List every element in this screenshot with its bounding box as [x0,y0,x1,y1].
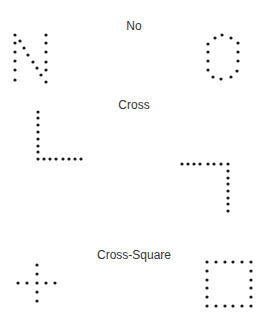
dot [213,36,216,39]
dot-shape-square [205,260,252,307]
dot [212,162,215,165]
dot [36,123,39,126]
dot [22,46,25,49]
dot [36,150,39,153]
dot [54,157,57,160]
dot [240,304,243,307]
dot-shape-letter-o [206,33,239,80]
dot [13,33,16,36]
dot [249,260,252,263]
dot [240,260,243,263]
dot [36,137,39,140]
dot [13,59,16,62]
dot [249,278,252,281]
dot [44,68,47,71]
dot [44,50,47,53]
dot [249,269,252,272]
dot [61,157,64,160]
dot [223,304,226,307]
dot [39,73,42,76]
dot [249,295,252,298]
dot-shape-letter-n [13,33,47,83]
dot [35,272,38,275]
dot [180,162,183,165]
dot [220,33,223,36]
dot [235,69,238,72]
dot [231,260,234,263]
dot [35,281,38,284]
dot [79,157,82,160]
dot [205,278,208,281]
dot [226,169,229,172]
dot [13,78,16,81]
dot [236,59,239,62]
dot [206,59,209,62]
dot [44,33,47,36]
dot [13,68,16,71]
dot [53,281,56,284]
dot [35,66,38,69]
dot-figures [0,0,268,326]
dot [236,50,239,53]
dot [229,75,232,78]
dot [35,290,38,293]
dot [249,286,252,289]
dot-shape-corner-l [36,110,82,160]
dot [25,281,28,284]
dot [18,39,21,42]
dot [16,281,19,284]
dot [36,110,39,113]
dot-shape-plus-cross [16,263,56,302]
dot [44,41,47,44]
dot [231,304,234,307]
dot [226,176,229,179]
dot [36,157,39,160]
dot [36,144,39,147]
dot [67,157,70,160]
dot [206,50,209,53]
dot [226,202,229,205]
dot [214,304,217,307]
dot [205,269,208,272]
dot [198,162,201,165]
dot [219,77,222,80]
dot [226,182,229,185]
dot [192,162,195,165]
dot [13,50,16,53]
dot [205,304,208,307]
dot [73,157,76,160]
dot [205,260,208,263]
dot [206,42,209,45]
dot [35,263,38,266]
dot [219,162,222,165]
dot [236,41,239,44]
dot [44,281,47,284]
dot [226,196,229,199]
dot [214,260,217,263]
dot [42,157,45,160]
dot [211,75,214,78]
dot [26,53,29,56]
dot [206,68,209,71]
dot [226,162,229,165]
dot [206,162,209,165]
dot [48,157,51,160]
dot [205,286,208,289]
dot [35,299,38,302]
dot [229,36,232,39]
dot-shape-corner-mirrored [180,162,229,212]
dot [205,295,208,298]
dot [223,260,226,263]
dot [31,60,34,63]
dot [44,60,47,63]
dot [36,130,39,133]
dot [226,189,229,192]
dot [13,41,16,44]
dot [226,209,229,212]
dot [249,304,252,307]
dot [36,116,39,119]
dot [186,162,189,165]
dot [44,80,47,83]
